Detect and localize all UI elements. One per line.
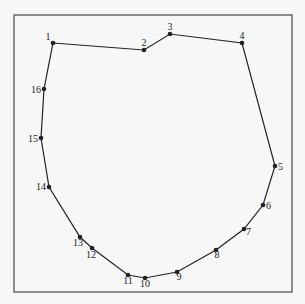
vertex-label-14: 14: [36, 181, 46, 192]
vertex-point-3: [168, 32, 173, 37]
vertex-label-6: 6: [266, 200, 271, 211]
vertex-point-6: [261, 203, 266, 208]
diagram-frame: [14, 15, 292, 292]
vertex-group: 12345678910111213141516: [28, 21, 283, 289]
vertex-label-2: 2: [142, 37, 147, 48]
vertex-point-4: [240, 41, 245, 46]
vertex-point-16: [42, 87, 47, 92]
vertex-label-3: 3: [168, 21, 173, 32]
vertex-label-8: 8: [215, 249, 220, 260]
vertex-label-11: 11: [123, 275, 133, 286]
vertex-label-9: 9: [177, 271, 182, 282]
vertex-label-4: 4: [240, 30, 245, 41]
vertex-point-2: [142, 48, 147, 53]
vertex-label-13: 13: [73, 237, 83, 248]
vertex-label-5: 5: [278, 161, 283, 172]
vertex-label-12: 12: [86, 249, 96, 260]
vertex-point-1: [51, 41, 56, 46]
vertex-label-15: 15: [28, 133, 38, 144]
vertex-label-1: 1: [46, 31, 51, 42]
polygon-diagram: 12345678910111213141516: [0, 0, 305, 304]
vertex-point-15: [39, 136, 44, 141]
vertex-label-10: 10: [140, 278, 150, 289]
vertex-point-5: [273, 164, 278, 169]
vertex-point-14: [47, 185, 52, 190]
vertex-label-16: 16: [31, 84, 41, 95]
vertex-label-7: 7: [246, 226, 251, 237]
